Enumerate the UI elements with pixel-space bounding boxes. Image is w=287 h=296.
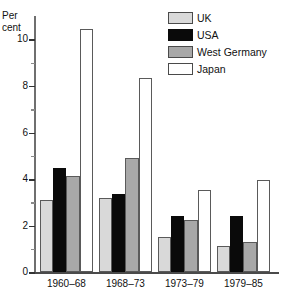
- legend-swatch-japan: [168, 63, 193, 75]
- y-axis-title-line-2: cent: [2, 22, 21, 34]
- bar-wgermany-1960-68: [66, 176, 79, 273]
- chart-legend: UK USA West Germany Japan: [168, 10, 286, 78]
- y-minor-tick-7: [31, 109, 35, 110]
- bar-japan-1968-73: [139, 78, 152, 273]
- bar-usa-1968-73: [112, 194, 125, 272]
- legend-swatch-uk: [168, 12, 193, 24]
- y-tick-label-10: 10: [6, 33, 28, 44]
- x-axis-label-1979-85: 1979–85: [217, 278, 269, 289]
- legend-label-uk: UK: [197, 12, 212, 24]
- bar-usa-1973-79: [171, 216, 184, 272]
- legend-label-usa: USA: [197, 29, 219, 41]
- y-tick-label-0: 0: [6, 266, 28, 277]
- bar-usa-1960-68: [53, 168, 66, 273]
- legend-item-japan: Japan: [168, 61, 286, 77]
- bar-japan-1973-79: [198, 190, 211, 273]
- bar-uk-1979-85: [217, 246, 230, 273]
- y-tick-10: [29, 39, 35, 40]
- legend-label-japan: Japan: [197, 63, 226, 75]
- legend-item-usa: USA: [168, 27, 286, 43]
- y-minor-tick-5: [31, 156, 35, 157]
- y-minor-tick-9: [31, 63, 35, 64]
- x-axis-label-1960-68: 1960–68: [40, 278, 92, 289]
- bar-wgermany-1979-85: [243, 242, 256, 272]
- bar-wgermany-1968-73: [125, 158, 138, 272]
- bar-wgermany-1973-79: [184, 220, 197, 272]
- y-tick-label-2: 2: [6, 220, 28, 231]
- bar-uk-1968-73: [99, 198, 112, 273]
- x-axis-label-1968-73: 1968–73: [99, 278, 151, 289]
- legend-item-uk: UK: [168, 10, 286, 26]
- y-axis-title-line-1: Per: [2, 10, 21, 22]
- y-tick-label-6: 6: [6, 127, 28, 138]
- y-minor-tick-1: [31, 249, 35, 250]
- legend-label-west-germany: West Germany: [197, 46, 267, 58]
- bar-japan-1979-85: [257, 180, 270, 272]
- y-tick-label-8: 8: [6, 80, 28, 91]
- bar-chart: Per cent 0246810 1960–681968–731973–7919…: [0, 0, 287, 296]
- x-axis-label-1973-79: 1973–79: [158, 278, 210, 289]
- bar-uk-1960-68: [40, 200, 53, 272]
- y-axis-title: Per cent: [2, 10, 21, 33]
- y-tick-8: [29, 86, 35, 87]
- y-tick-6: [29, 133, 35, 134]
- y-minor-tick-3: [31, 202, 35, 203]
- y-tick-4: [29, 179, 35, 180]
- legend-swatch-west-germany: [168, 46, 193, 58]
- legend-swatch-usa: [168, 29, 193, 41]
- legend-item-west-germany: West Germany: [168, 44, 286, 60]
- bar-uk-1973-79: [158, 237, 171, 272]
- y-tick-0: [29, 272, 35, 273]
- bar-japan-1960-68: [80, 29, 93, 273]
- y-tick-2: [29, 226, 35, 227]
- y-tick-label-4: 4: [6, 173, 28, 184]
- bar-usa-1979-85: [230, 216, 243, 272]
